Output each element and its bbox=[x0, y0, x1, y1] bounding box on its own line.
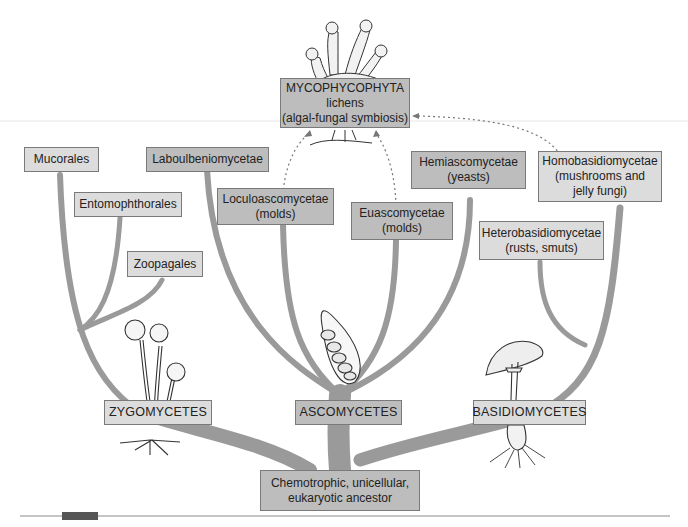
heterobasidiomycetae-box: Heterobasidiomycetae (rusts, smuts) bbox=[479, 221, 604, 260]
symbiosis-common-name: lichens bbox=[326, 96, 363, 111]
laboulbeniomycetae-box: Laboulbeniomycetae bbox=[146, 147, 269, 172]
zoopagales-box: Zoopagales bbox=[127, 251, 203, 277]
loculoascomycetae-box: Loculoascomycetae (molds) bbox=[217, 188, 334, 225]
order-label: Laboulbeniomycetae bbox=[152, 152, 263, 167]
mycophycophyta-box: MYCOPHYCOPHYTA lichens (algal-fungal sym… bbox=[280, 78, 410, 128]
ascus-illustration-icon bbox=[321, 311, 360, 384]
order-sublabel: (rusts, smuts) bbox=[505, 241, 578, 256]
ascomycetes-box: ASCOMYCETES bbox=[295, 400, 402, 425]
order-label: Loculoascomycetae bbox=[222, 192, 328, 207]
order-label: Zoopagales bbox=[134, 257, 197, 272]
figure-marker bbox=[62, 512, 98, 520]
order-sublabel: jelly fungi) bbox=[573, 184, 627, 199]
order-sublabel: (molds) bbox=[255, 207, 295, 222]
symbiosis-title: MYCOPHYCOPHYTA bbox=[286, 81, 404, 96]
basidiomycetes-box: BASIDIOMYCETES bbox=[473, 400, 586, 425]
order-label: Euascomycetae bbox=[359, 206, 444, 221]
ancestor-label: Chemotrophic, unicellular, bbox=[271, 476, 409, 491]
class-label: ZYGOMYCETES bbox=[109, 405, 207, 420]
order-label: Heterobasidiomycetae bbox=[482, 226, 601, 241]
euascomycetae-box: Euascomycetae (molds) bbox=[351, 202, 453, 240]
order-sublabel: (yeasts) bbox=[447, 170, 490, 185]
sporangiophore-illustration-icon bbox=[120, 320, 185, 455]
class-label: ASCOMYCETES bbox=[299, 405, 397, 420]
order-sublabel: (molds) bbox=[382, 221, 422, 236]
ancestor-box: Chemotrophic, unicellular, eukaryotic an… bbox=[260, 470, 420, 511]
hemiascomycetae-box: Hemiascomycetae (yeasts) bbox=[411, 151, 526, 189]
order-label: Entomophthorales bbox=[79, 197, 176, 212]
order-label: Homobasidiomycetae bbox=[542, 154, 657, 169]
order-label: Hemiascomycetae bbox=[419, 155, 518, 170]
order-sublabel: (mushrooms and bbox=[555, 169, 645, 184]
homobasidiomycetae-box: Homobasidiomycetae (mushrooms and jelly … bbox=[538, 151, 662, 202]
entomophthorales-box: Entomophthorales bbox=[74, 192, 182, 217]
ancestor-label: eukaryotic ancestor bbox=[288, 491, 392, 506]
class-label: BASIDIOMYCETES bbox=[473, 405, 587, 420]
order-label: Mucorales bbox=[34, 152, 89, 167]
fungi-phylogeny-diagram: MYCOPHYCOPHYTA lichens (algal-fungal sym… bbox=[0, 0, 688, 527]
mucorales-box: Mucorales bbox=[24, 147, 99, 172]
zygomycetes-box: ZYGOMYCETES bbox=[104, 400, 212, 425]
symbiosis-description: (algal-fungal symbiosis) bbox=[282, 111, 408, 126]
